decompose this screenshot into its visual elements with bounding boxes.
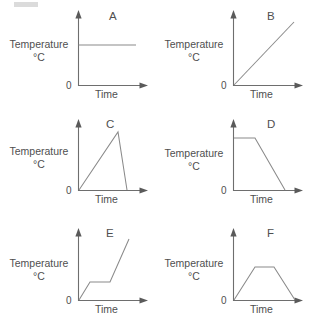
y-axis-label-text-f: Temperature [165,257,224,269]
graph-c-curve [79,132,127,190]
x-axis-arrow-c [140,187,149,193]
y-axis-label-d: Temperature °C [159,147,229,172]
panel-letter-d: D [267,118,275,130]
origin-label-a: 0 [66,80,72,91]
panel-letter-b: B [267,10,275,22]
y-axis-arrow-d [230,119,236,128]
origin-label-e: 0 [66,295,72,306]
y-axis-label-text-c: Temperature [10,145,69,157]
y-axis-arrow-a [75,10,81,19]
origin-label-b: 0 [221,80,227,91]
graph-panel-b: Temperature °C 0 Time B [161,0,321,105]
graph-d-curve [234,138,285,190]
origin-label-c: 0 [66,185,72,196]
graph-panel-d: Temperature °C 0 Time D [161,107,321,212]
y-axis-label-e: Temperature °C [4,257,74,282]
x-axis-label-d: Time [250,193,273,205]
y-axis-unit-a: °C [4,51,74,64]
y-axis-arrow-c [75,119,81,128]
axes-c [75,119,148,194]
y-axis-label-b: Temperature °C [159,38,229,63]
x-axis-label-c: Time [95,193,118,205]
y-axis-label-text-d: Temperature [165,147,224,159]
axes-e [75,228,148,304]
panel-letter-c: C [106,118,114,130]
y-axis-arrow-e [75,228,81,237]
y-axis-unit-d: °C [159,160,229,173]
y-axis-label-a: Temperature °C [4,38,74,63]
graph-panel-c: Temperature °C 0 Time C [0,107,160,212]
y-axis-label-f: Temperature °C [159,257,229,282]
y-axis-label-c: Temperature °C [4,145,74,170]
x-axis-arrow-b [295,82,304,88]
graph-b-curve [234,22,294,85]
y-axis-label-text-a: Temperature [10,38,69,50]
x-axis-arrow-f [295,297,304,303]
x-axis-label-a: Time [95,88,118,100]
y-axis-label-text-e: Temperature [10,257,69,269]
origin-label-d: 0 [221,185,227,196]
panel-letter-e: E [106,227,114,239]
origin-label-f: 0 [221,295,227,306]
axes-f [230,228,303,304]
y-axis-unit-e: °C [4,270,74,283]
graph-panel-e: Temperature °C 0 Time E [0,214,160,319]
graph-panel-f: Temperature °C 0 Time F [161,214,321,319]
axes-d [230,119,303,194]
panel-letter-a: A [109,10,117,22]
x-axis-label-f: Time [250,303,273,315]
y-axis-unit-f: °C [159,270,229,283]
x-axis-label-b: Time [250,88,273,100]
y-axis-arrow-b [230,10,236,19]
graph-e-curve [79,239,129,300]
graph-panel-a: Temperature °C 0 Time A [0,0,160,105]
x-axis-arrow-a [140,82,149,88]
y-axis-unit-c: °C [4,158,74,171]
y-axis-arrow-f [230,228,236,237]
y-axis-label-text-b: Temperature [165,38,224,50]
x-axis-arrow-d [295,187,304,193]
x-axis-label-e: Time [95,303,118,315]
panel-letter-f: F [267,227,274,239]
x-axis-arrow-e [140,297,149,303]
y-axis-unit-b: °C [159,51,229,64]
worksheet-figure: Temperature °C 0 Time A Temperature °C 0… [0,0,321,323]
graph-f-curve [234,267,295,300]
